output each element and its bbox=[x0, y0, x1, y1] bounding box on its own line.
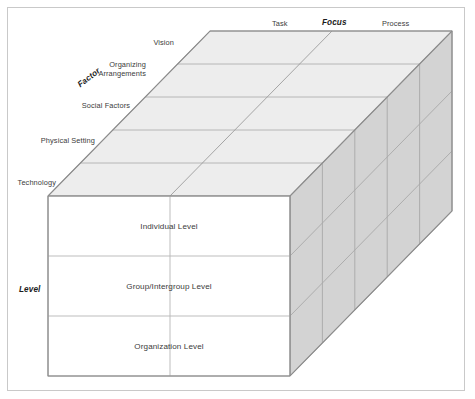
level-cell-group-intergroup: Group/Intergroup Level bbox=[48, 282, 290, 291]
factor-category-technology: Technology bbox=[0, 178, 56, 187]
level-cell-organization: Organization Level bbox=[48, 342, 290, 351]
cube-diagram-graphic bbox=[0, 0, 475, 399]
factor-category-physical-setting: Physical Setting bbox=[17, 136, 95, 145]
factor-organizing-line2: Arrangements bbox=[98, 69, 146, 78]
factor-category-social-factors: Social Factors bbox=[52, 101, 130, 110]
focus-category-process: Process bbox=[382, 19, 409, 28]
focus-axis-label: Focus bbox=[322, 18, 347, 27]
figure-root: Task Focus Process Vision Organizing Arr… bbox=[0, 0, 475, 399]
factor-category-vision: Vision bbox=[118, 38, 174, 47]
factor-organizing-line1: Organizing bbox=[109, 60, 146, 69]
level-cell-individual: Individual Level bbox=[48, 222, 290, 231]
focus-category-task: Task bbox=[272, 19, 288, 28]
level-axis-label: Level bbox=[19, 285, 40, 294]
